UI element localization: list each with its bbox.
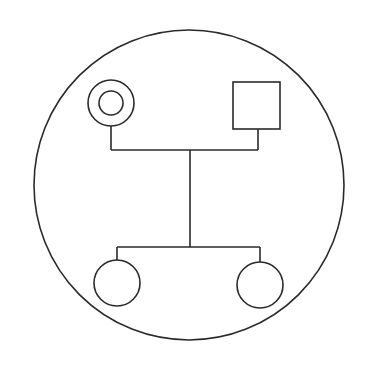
child-1-female-symbol	[94, 260, 140, 306]
female-inner-circle	[99, 91, 123, 115]
mother-symbol	[88, 80, 134, 126]
pedigree-diagram	[0, 0, 370, 370]
male-square-symbol	[233, 82, 280, 129]
child-2-female-symbol	[237, 262, 283, 308]
female-outer-circle	[88, 80, 134, 126]
enclosure-circle	[34, 30, 344, 340]
